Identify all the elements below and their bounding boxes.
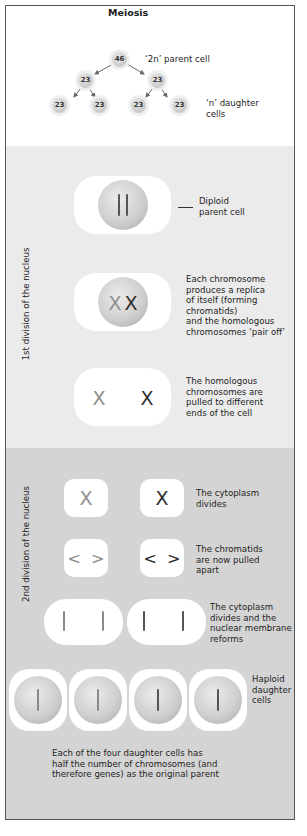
step-label: The chromatids are now pulled apart — [196, 544, 263, 576]
chromosome-x-icon: X — [155, 489, 168, 508]
chromatid-pair-icon: X — [124, 294, 137, 313]
middle-node: 23 — [150, 73, 165, 88]
second-division-section: 2nd division of the nucleus X X The cyto… — [6, 448, 294, 820]
second-division-label: 2nd division of the nucleus — [21, 486, 31, 602]
chromatid-bar — [182, 611, 184, 631]
step-label: The cytoplasm divides and the nuclear me… — [210, 602, 292, 644]
chromatid-bar — [97, 689, 99, 711]
step-label: Each chromosome produces a replica of it… — [186, 274, 285, 338]
separating-cell — [74, 368, 171, 426]
chromatid-bar — [143, 611, 145, 631]
chromatid-bar — [63, 611, 65, 631]
daughter-node: 23 — [131, 98, 146, 113]
parent-cell-label: ‘2n’ parent cell — [145, 54, 210, 65]
summary-text: Each of the four daughter cells has half… — [52, 748, 219, 780]
chromosome-bar — [118, 194, 120, 216]
meiosis-diagram: Meiosis 46 23 23 23 23 23 23 ‘2n’ parent… — [5, 5, 295, 820]
first-division-label: 1st division of the nucleus — [21, 248, 31, 361]
chromatid-bar — [217, 689, 219, 711]
daughter-node: 23 — [92, 98, 107, 113]
dividing-cell — [127, 599, 206, 645]
step-label: The cytoplasm divides — [196, 488, 259, 509]
first-division-section: 1st division of the nucleus Diploid pare… — [6, 146, 294, 448]
parent-node-46: 46 — [112, 52, 127, 67]
chromatid-pair-icon: X — [108, 294, 121, 313]
chromatid-bar — [37, 689, 39, 711]
chromatids-apart-icon: < > — [68, 549, 105, 568]
nucleus — [98, 277, 148, 327]
step-label: Haploid daughter cells — [252, 674, 291, 706]
chromatid-bar — [157, 689, 159, 711]
nucleus — [98, 180, 148, 230]
overview-section: Meiosis 46 23 23 23 23 23 23 ‘2n’ parent… — [6, 6, 294, 146]
daughter-node: 23 — [172, 98, 187, 113]
step-label: The homologous chromosomes are pulled to… — [186, 376, 263, 418]
chromatid-bar — [102, 611, 104, 631]
chromosome-bar — [126, 194, 128, 216]
dividing-cell — [44, 599, 123, 645]
daughter-node: 23 — [52, 98, 67, 113]
step-label: Diploid parent cell — [199, 196, 245, 217]
chromosome-x-icon: X — [140, 389, 153, 408]
leader-line — [178, 207, 193, 208]
middle-node: 23 — [78, 73, 93, 88]
daughter-cells-label: ‘n’ daughter cells — [206, 98, 259, 119]
chromosome-x-icon: X — [79, 489, 92, 508]
chromatids-apart-icon: < > — [144, 549, 181, 568]
chromosome-x-icon: X — [92, 389, 105, 408]
